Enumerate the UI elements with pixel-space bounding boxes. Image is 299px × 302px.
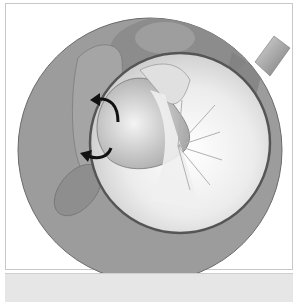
tube-structure: [255, 36, 290, 76]
anatomical-illustration: [0, 0, 299, 302]
caption-strip: [5, 273, 293, 302]
magnified-lens: [90, 53, 270, 233]
